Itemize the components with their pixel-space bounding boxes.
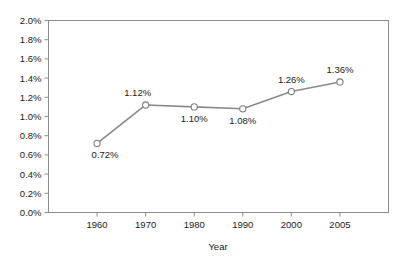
y-tick-label: 0.0% xyxy=(20,207,42,218)
y-tick-label: 2.0% xyxy=(20,15,42,26)
x-tick-label: 1990 xyxy=(232,219,253,230)
data-point-label: 0.72% xyxy=(92,149,119,160)
data-point-marker xyxy=(94,140,100,146)
data-point-label: 1.12% xyxy=(124,87,151,98)
line-chart-figure: 0.0%0.2%0.4%0.6%0.8%1.0%1.2%1.4%1.6%1.8%… xyxy=(0,0,403,265)
data-point-marker xyxy=(337,79,343,85)
y-tick-label: 0.6% xyxy=(20,149,42,160)
data-point-label: 1.26% xyxy=(278,74,305,85)
x-tick-label: 1970 xyxy=(135,219,156,230)
data-point-label: 1.36% xyxy=(326,64,353,75)
data-point-label: 1.08% xyxy=(229,115,256,126)
x-tick-label: 1980 xyxy=(184,219,205,230)
x-tick-label: 2000 xyxy=(281,219,302,230)
chart-canvas: 0.0%0.2%0.4%0.6%0.8%1.0%1.2%1.4%1.6%1.8%… xyxy=(0,0,403,265)
data-point-marker xyxy=(143,102,149,108)
data-point-label: 1.10% xyxy=(181,113,208,124)
data-point-marker xyxy=(288,88,294,94)
plot-frame xyxy=(49,21,389,213)
y-tick-label: 0.4% xyxy=(20,169,42,180)
x-tick-label: 1960 xyxy=(87,219,108,230)
x-tick-label: 2005 xyxy=(329,219,350,230)
y-tick-label: 1.6% xyxy=(20,53,42,64)
y-tick-label: 1.2% xyxy=(20,92,42,103)
data-point-marker xyxy=(240,106,246,112)
x-axis-title: Year xyxy=(208,241,227,252)
y-tick-label: 0.8% xyxy=(20,130,42,141)
y-tick-label: 1.8% xyxy=(20,34,42,45)
y-tick-label: 1.0% xyxy=(20,111,42,122)
data-point-marker xyxy=(191,104,197,110)
y-tick-label: 1.4% xyxy=(20,73,42,84)
y-tick-label: 0.2% xyxy=(20,188,42,199)
